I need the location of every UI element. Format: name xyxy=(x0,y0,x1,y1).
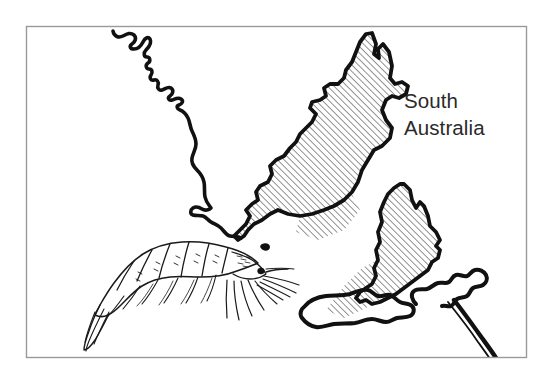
region-label-line1: South xyxy=(404,89,458,112)
figure-root: South Australia xyxy=(0,0,551,381)
map-figure-svg: South Australia xyxy=(0,0,551,381)
prawn-eye xyxy=(258,268,265,274)
region-label-line2: Australia xyxy=(404,116,485,139)
